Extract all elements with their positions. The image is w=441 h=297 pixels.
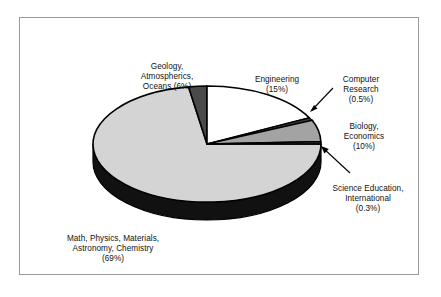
slice-label-science-education: Science Education, International (0.3%): [316, 184, 420, 215]
figure-frame: Geology, Atmospherics, Oceans (6%) Engin…: [19, 17, 419, 275]
slice-label-math-physics: Math, Physics, Materials, Astronomy, Che…: [38, 234, 188, 265]
slice-label-engineering: Engineering (15%): [234, 75, 320, 95]
slice-label-biology-economics: Biology, Economics (10%): [328, 122, 400, 153]
slice-label-computer-research: Computer Research (0.5%): [325, 75, 397, 106]
pie-chart-figure: Geology, Atmospherics, Oceans (6%) Engin…: [0, 0, 441, 297]
pie-top-face: [93, 86, 321, 202]
slice-label-geology: Geology, Atmospherics, Oceans (6%): [115, 62, 219, 93]
